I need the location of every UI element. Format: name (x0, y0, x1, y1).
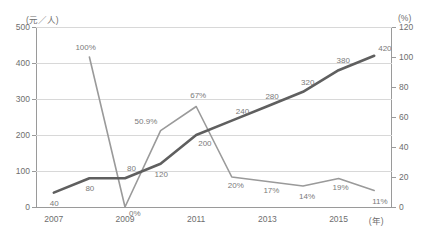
data-label-growth-rate: 19% (333, 183, 349, 192)
x-axis-tick-label: 2007 (31, 214, 77, 224)
right-axis-tickmark (392, 27, 396, 28)
per-capita-amount-line (54, 56, 374, 193)
right-axis-tick-label: 40 (399, 142, 429, 152)
data-label-amount: 40 (50, 199, 59, 208)
right-axis-tickmark (392, 117, 396, 118)
data-label-amount: 380 (337, 56, 350, 65)
right-axis-tick-label: 20 (399, 172, 429, 182)
left-axis-tickmark (32, 207, 36, 208)
right-axis-tickmark (392, 207, 396, 208)
x-axis-tick-label: 2011 (173, 214, 219, 224)
right-axis-tickmark (392, 87, 396, 88)
clipped-header-text (0, 0, 432, 3)
left-axis-tick-label: 0 (2, 202, 30, 212)
data-label-amount: 80 (85, 184, 94, 193)
left-axis-unit-label: (元／人) (26, 13, 59, 25)
right-axis-tickmark (392, 147, 396, 148)
data-label-growth-rate: 17% (263, 186, 279, 195)
right-axis-tick-label: 80 (399, 82, 429, 92)
data-label-growth-rate: 14% (299, 192, 315, 201)
series-paths (36, 27, 392, 207)
data-label-amount: 420 (378, 44, 391, 53)
x-axis-line (36, 207, 392, 208)
right-axis-tickmark (392, 177, 396, 178)
x-axis-tick-label: 2013 (244, 214, 290, 224)
data-label-growth-rate: 20% (228, 181, 244, 190)
clipped-footer-text (6, 230, 206, 239)
left-axis-tickmark (32, 63, 36, 64)
right-axis-tick-label: 100 (399, 52, 429, 62)
left-axis-tick-label: 300 (2, 94, 30, 104)
data-label-amount: 200 (198, 139, 211, 148)
right-axis-tick-label: 60 (399, 112, 429, 122)
left-axis-tickmark (32, 27, 36, 28)
left-axis-tick-label: 200 (2, 130, 30, 140)
left-axis-tickmark (32, 99, 36, 100)
data-label-amount: 120 (155, 170, 168, 179)
right-axis-tick-label: 120 (399, 22, 429, 32)
left-axis-tick-label: 500 (2, 22, 30, 32)
plot-area: 408080120200240280320380420100%0%50.9%67… (36, 27, 392, 207)
left-axis-tickmark (32, 171, 36, 172)
data-label-amount: 240 (236, 107, 249, 116)
data-label-amount: 320 (301, 78, 314, 87)
line-chart: (元／人) (%) 408080120200240280320380420100… (0, 0, 432, 239)
left-axis-tick-label: 100 (2, 166, 30, 176)
right-axis-tick-label: 0 (399, 202, 429, 212)
x-axis-unit-label: (年) (353, 214, 399, 226)
x-axis-tick-label: 2009 (102, 214, 148, 224)
data-label-growth-rate: 50.9% (135, 117, 158, 126)
data-label-amount: 280 (265, 92, 278, 101)
data-label-growth-rate: 100% (75, 43, 95, 52)
data-label-growth-rate: 11% (372, 197, 387, 206)
data-label-growth-rate: 67% (190, 91, 206, 100)
data-label-amount: 80 (127, 164, 136, 173)
left-axis-tickmark (32, 135, 36, 136)
left-axis-tick-label: 400 (2, 58, 30, 68)
right-axis-tickmark (392, 57, 396, 58)
